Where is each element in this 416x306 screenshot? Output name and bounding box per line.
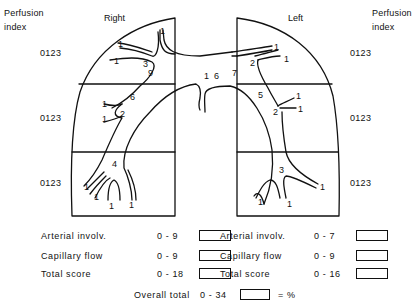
overall-total-label: Overall total — [134, 289, 190, 301]
right-seg-1h: 1 — [109, 201, 114, 211]
right-seg-6: 6 — [130, 92, 135, 102]
overall-total-input[interactable] — [240, 289, 270, 300]
right-total-row: Total score 0 - 18 — [41, 268, 211, 280]
left-seg-1b: 1 — [284, 54, 289, 64]
hilum-6: 6 — [214, 71, 219, 81]
right-seg-1f: 1 — [84, 182, 89, 192]
score-label: Capillary flow — [220, 250, 282, 262]
right-seg-3: 3 — [143, 59, 148, 69]
left-total-input[interactable] — [356, 268, 388, 279]
right-seg-1e: 1 — [102, 114, 107, 124]
score-range: 0 - 18 — [157, 268, 184, 280]
left-arterial-row: Arterial involv. 0 - 7 — [220, 230, 390, 242]
right-seg-4: 4 — [112, 159, 117, 169]
left-seg-7: 7 — [232, 68, 237, 78]
right-seg-1g: 1 — [94, 192, 99, 202]
left-seg-2b: 2 — [273, 107, 278, 117]
score-label: Arterial involv. — [41, 230, 106, 242]
score-label: Total score — [220, 268, 270, 280]
score-range: 0 - 9 — [157, 230, 178, 242]
left-seg-2a: 2 — [250, 58, 255, 68]
right-seg-2: 2 — [120, 109, 125, 119]
left-seg-1a: 1 — [274, 42, 279, 52]
left-capillary-row: Capillary flow 0 - 9 — [220, 250, 390, 262]
left-seg-1f: 1 — [258, 197, 263, 207]
segment-labels: 9 1 1 3 1 6 1 2 1 4 1 1 1 1 1 6 7 2 1 1 … — [84, 26, 325, 211]
hilum-1: 1 — [204, 71, 209, 81]
score-range: 0 - 7 — [314, 230, 335, 242]
left-capillary-input[interactable] — [356, 250, 388, 261]
left-seg-1d: 1 — [298, 104, 303, 114]
score-range: 0 - 16 — [314, 268, 341, 280]
score-label: Arterial involv. — [220, 230, 285, 242]
right-capillary-row: Capillary flow 0 - 9 — [41, 250, 211, 262]
left-total-row: Total score 0 - 16 — [220, 268, 390, 280]
right-seg-1a: 1 — [160, 26, 165, 36]
right-seg-1i: 1 — [129, 200, 134, 210]
left-seg-1e: 1 — [320, 182, 325, 192]
overall-total-row: Overall total 0 - 34 = % — [134, 289, 334, 301]
percent-suffix: = % — [278, 289, 296, 301]
score-range: 0 - 9 — [157, 250, 178, 262]
right-arterial-row: Arterial involv. 0 - 9 — [41, 230, 211, 242]
left-seg-1c: 1 — [296, 91, 301, 101]
overall-total-range: 0 - 34 — [200, 289, 227, 301]
score-label: Capillary flow — [41, 250, 103, 262]
left-seg-1g: 1 — [287, 199, 292, 209]
score-range: 0 - 9 — [314, 250, 335, 262]
score-label: Total score — [41, 268, 91, 280]
right-seg-1d: 1 — [102, 99, 107, 109]
right-seg-1b: 1 — [118, 39, 123, 49]
right-seg-9: 9 — [148, 68, 153, 78]
left-seg-3: 3 — [279, 165, 284, 175]
left-seg-5: 5 — [258, 90, 263, 100]
right-seg-1c: 1 — [114, 56, 119, 66]
left-arterial-input[interactable] — [356, 230, 388, 241]
